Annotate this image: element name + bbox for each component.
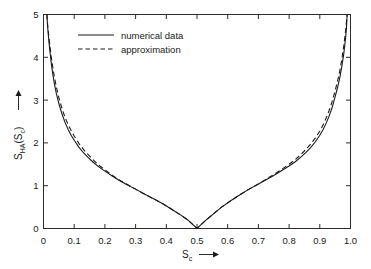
x-tick-label: 0.1: [68, 235, 81, 246]
y-tick-label: 4: [33, 52, 38, 63]
x-tick-label: 1.0: [344, 235, 357, 246]
x-tick-label: 0.7: [252, 235, 265, 246]
y-tick-label: 1: [33, 180, 38, 191]
legend-label-approximation: approximation: [121, 44, 181, 55]
x-tick-label: 0.6: [221, 235, 234, 246]
y-axis-title-part2: (S: [13, 133, 24, 143]
chart-svg: 00.10.20.30.40.50.60.70.80.91.0 012345 n…: [0, 0, 371, 269]
y-axis-title-sub1: HA: [19, 143, 26, 153]
x-axis-title-sub: c: [189, 255, 193, 262]
legend-label-numerical-data: numerical data: [121, 30, 184, 41]
x-tick-label: 0.5: [190, 235, 203, 246]
y-tick-label: 3: [33, 95, 38, 106]
x-tick-label: 0.9: [313, 235, 326, 246]
x-tick-label: 0.4: [160, 235, 173, 246]
x-tick-label: 0.8: [282, 235, 295, 246]
y-tick-label: 5: [33, 9, 38, 20]
y-axis-title-part3: ): [13, 127, 24, 130]
y-tick-label: 2: [33, 137, 38, 148]
x-tick-label: 0.2: [98, 235, 111, 246]
x-tick-label: 0.3: [129, 235, 142, 246]
x-tick-label: 0: [41, 235, 46, 246]
y-tick-label: 0: [33, 223, 38, 234]
figure-container: 00.10.20.30.40.50.60.70.80.91.0 012345 n…: [0, 0, 371, 269]
